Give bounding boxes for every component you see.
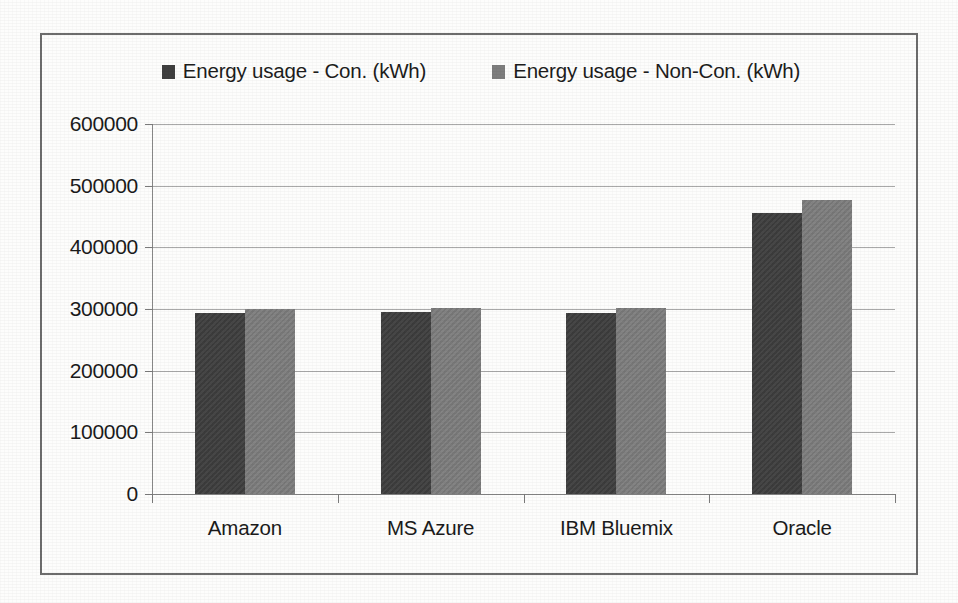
x-tick-boundary: [895, 494, 896, 503]
chart-frame: Energy usage - Con. (kWh) Energy usage -…: [40, 33, 918, 575]
plot-area: 6000005000004000003000002000001000000 Am…: [152, 124, 895, 494]
x-tick-boundary: [524, 494, 525, 503]
y-axis-label: 600000: [70, 112, 138, 136]
legend-swatch-icon-noncon: [492, 65, 505, 79]
y-axis-label: 100000: [70, 420, 138, 444]
bar-ibm-bluemix-con: [566, 313, 616, 494]
legend-label-noncon: Energy usage - Non-Con. (kWh): [513, 59, 800, 83]
x-tick-boundary: [709, 494, 710, 503]
y-axis-label: 200000: [70, 359, 138, 383]
x-axis-label-oracle: Oracle: [773, 516, 832, 540]
gridline-600000: [152, 124, 895, 125]
gridline-500000: [152, 186, 895, 187]
y-tick-200000: [145, 371, 153, 372]
x-axis-label-ms-azure: MS Azure: [387, 516, 474, 540]
legend-item-con: Energy usage - Con. (kWh): [162, 59, 426, 83]
scanned-page: Energy usage - Con. (kWh) Energy usage -…: [0, 0, 958, 603]
y-axis-label: 400000: [70, 235, 138, 259]
bar-ms-azure-con: [381, 312, 431, 494]
y-axis-label: 500000: [70, 174, 138, 198]
legend-item-noncon: Energy usage - Non-Con. (kWh): [492, 59, 800, 83]
y-axis-label: 300000: [70, 297, 138, 321]
x-axis-label-ibm-bluemix: IBM Bluemix: [560, 516, 673, 540]
y-tick-400000: [145, 247, 153, 248]
bar-ibm-bluemix-non-con: [616, 308, 666, 494]
x-axis-label-amazon: Amazon: [208, 516, 282, 540]
bar-oracle-non-con: [802, 200, 852, 494]
y-tick-100000: [145, 432, 153, 433]
bar-amazon-non-con: [245, 309, 295, 494]
chart-legend: Energy usage - Con. (kWh) Energy usage -…: [42, 59, 920, 83]
y-axis-label: 0: [127, 482, 138, 506]
x-tick-origin: [152, 494, 153, 503]
bar-ms-azure-non-con: [431, 308, 481, 494]
y-tick-300000: [145, 309, 153, 310]
x-tick-boundary: [338, 494, 339, 503]
legend-label-con: Energy usage - Con. (kWh): [183, 59, 426, 83]
y-tick-600000: [145, 124, 153, 125]
bar-amazon-con: [195, 313, 245, 494]
bar-oracle-con: [752, 213, 802, 494]
legend-swatch-icon-con: [162, 65, 175, 79]
y-tick-500000: [145, 186, 153, 187]
